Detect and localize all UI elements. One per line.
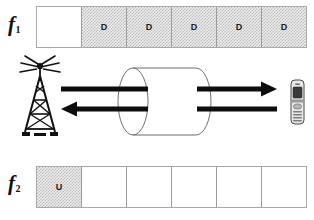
slot-f2-1-label: U	[56, 183, 63, 192]
arrow-group	[61, 82, 277, 117]
slot-f1-4: D	[172, 7, 217, 47]
transmission-scene-svg	[0, 54, 314, 160]
slot-f1-2-label: D	[101, 23, 108, 32]
slot-f2-6	[262, 167, 306, 207]
frequency-label-f1-subscript: 1	[16, 24, 21, 35]
frequency-label-f1: f1	[8, 14, 21, 35]
slot-f1-1	[37, 7, 82, 47]
slot-f2-2	[82, 167, 127, 207]
slot-f1-6-label: D	[281, 23, 288, 32]
slot-f2-5	[217, 167, 262, 207]
slot-f1-5: D	[217, 7, 262, 47]
frame-row-f2: U	[36, 166, 307, 208]
slot-f1-3-label: D	[146, 23, 153, 32]
slot-f1-5-label: D	[236, 23, 243, 32]
frequency-label-f2-base: f	[8, 171, 15, 195]
frequency-label-f1-base: f	[8, 12, 15, 36]
mobile-phone-icon	[291, 80, 304, 124]
slot-f1-4-label: D	[191, 23, 198, 32]
uplink-arrow-to-tower	[61, 102, 148, 117]
slot-f1-2: D	[82, 7, 127, 47]
downlink-bar-right	[197, 107, 277, 112]
slot-f2-1: U	[37, 167, 82, 207]
channel-cylinder	[118, 68, 211, 135]
transmission-scene	[0, 54, 314, 160]
slot-f1-3: D	[127, 7, 172, 47]
slot-f2-4	[172, 167, 217, 207]
frequency-label-f2: f2	[8, 173, 21, 194]
cell-tower-icon	[20, 56, 60, 136]
frequency-label-f2-subscript: 2	[16, 183, 21, 194]
figure-caption	[36, 211, 314, 220]
slot-f2-3	[127, 167, 172, 207]
frame-row-f1: D D D D D	[36, 6, 307, 48]
slot-f1-6: D	[262, 7, 306, 47]
uplink-bar-left	[61, 87, 148, 92]
